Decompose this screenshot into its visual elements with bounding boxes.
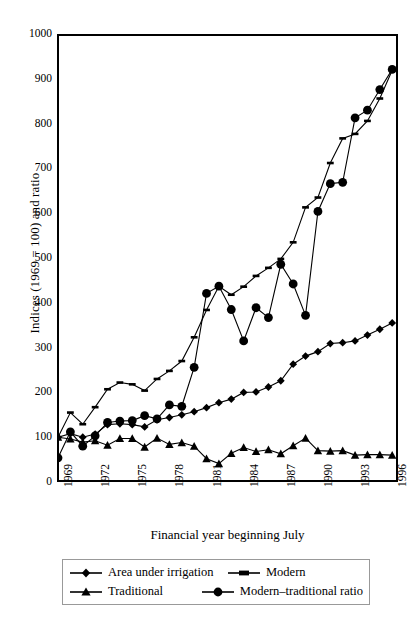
triangle-marker-icon (289, 442, 297, 450)
y-tick-label: 1000 (16, 28, 52, 40)
circle-marker-icon (326, 179, 335, 188)
triangle-marker-icon (69, 585, 103, 599)
circle-marker-icon (66, 427, 75, 436)
plus-tick-marker-icon (240, 285, 247, 288)
triangle-marker-icon (277, 450, 285, 458)
plus-tick-marker-icon (277, 258, 284, 261)
triangle-marker-icon (153, 434, 161, 442)
triangle-marker-icon (239, 443, 247, 451)
plus-tick-marker-icon (166, 370, 173, 373)
diamond-marker-icon (277, 377, 285, 385)
diamond-marker-icon (289, 360, 297, 368)
triangle-marker-icon (227, 449, 235, 457)
circle-marker-icon (252, 303, 261, 312)
x-tick-label: 1996 (397, 464, 409, 487)
plus-tick-marker-icon (315, 196, 322, 199)
legend-label: Modern (266, 566, 306, 579)
circle-marker-icon (314, 207, 323, 216)
circle-marker-icon (239, 336, 248, 345)
y-tick-label: 100 (16, 431, 52, 443)
plot-series-layer (57, 34, 398, 482)
x-tick-label: 1969 (63, 464, 75, 487)
circle-marker-icon (190, 363, 199, 372)
diamond-marker-icon (364, 331, 372, 339)
y-tick-label: 300 (16, 342, 52, 354)
triangle-marker-icon (264, 446, 272, 454)
x-tick-label: 1984 (249, 464, 261, 487)
plus-tick-marker-icon (104, 388, 111, 391)
triangle-marker-icon (140, 443, 148, 451)
x-tick-label: 1975 (137, 464, 149, 487)
circle-marker-icon (276, 260, 285, 269)
circle-marker-icon (140, 411, 149, 420)
plus-tick-marker-icon (79, 423, 86, 426)
circle-marker-icon (78, 442, 87, 451)
plus-tick-marker-icon (191, 336, 198, 339)
legend-entry-modern: Modern (227, 566, 306, 580)
x-axis-title: Financial year beginning July (57, 527, 398, 543)
diamond-marker-icon (240, 389, 248, 397)
circle-marker-icon (289, 280, 298, 289)
diamond-marker-icon (314, 348, 322, 356)
diamond-marker-icon (203, 404, 211, 412)
x-tick-label: 1972 (100, 464, 112, 487)
diamond-marker-icon (339, 339, 347, 347)
plus-tick-marker-icon (302, 206, 309, 209)
series-modern (57, 69, 396, 439)
series-line (58, 69, 392, 457)
triangle-marker-icon (103, 441, 111, 449)
legend-entry-traditional: Traditional (69, 585, 201, 599)
plus-tick-marker-icon (253, 275, 260, 278)
circle-marker-icon (177, 402, 186, 411)
diamond-marker-icon (141, 423, 149, 431)
series-line (58, 70, 392, 437)
x-tick-label: 1990 (323, 464, 335, 487)
plus-tick-marker-icon (339, 137, 346, 140)
diamond-marker-icon (351, 337, 359, 345)
series-traditional (57, 433, 396, 467)
plus-tick-marker-icon (364, 120, 371, 123)
x-tick-label: 1981 (212, 464, 224, 487)
plus-tick-marker-icon (178, 360, 185, 363)
triangle-marker-icon (301, 434, 309, 442)
diamond-marker-icon (69, 566, 103, 580)
diamond-marker-icon (215, 399, 223, 407)
circle-marker-icon (227, 305, 236, 314)
y-tick-label: 0 (16, 476, 52, 488)
diamond-marker-icon (302, 352, 310, 360)
plus-tick-marker-icon (141, 389, 148, 392)
circle-marker-icon (153, 414, 162, 423)
y-tick-label: 600 (16, 207, 52, 219)
circle-marker-icon (201, 585, 235, 599)
circle-marker-icon (215, 282, 224, 291)
plus-tick-marker-icon (265, 267, 272, 270)
circle-marker-icon (375, 85, 384, 94)
legend-label: Traditional (108, 585, 163, 598)
plus-tick-marker-icon (290, 241, 297, 244)
circle-marker-icon (301, 311, 310, 320)
series-modern-traditional-ratio (57, 65, 397, 462)
plus-tick-marker-icon (327, 162, 334, 165)
diamond-marker-icon (326, 340, 334, 348)
diamond-marker-icon (190, 408, 198, 416)
plus-tick-marker-icon (129, 383, 136, 386)
plus-tick-marker-icon (92, 406, 99, 409)
circle-marker-icon (351, 113, 360, 122)
circle-marker-icon (264, 313, 273, 322)
chart-legend: Area under irrigation Modern Traditional (62, 559, 370, 605)
diamond-marker-icon (388, 319, 396, 327)
diamond-marker-icon (252, 388, 260, 396)
plus-tick-marker-icon (116, 381, 123, 384)
circle-marker-icon (128, 416, 137, 425)
y-tick-label: 500 (16, 252, 52, 264)
y-tick-label: 900 (16, 73, 52, 85)
circle-marker-icon (363, 106, 372, 115)
triangle-marker-icon (178, 438, 186, 446)
circle-marker-icon (103, 418, 112, 427)
y-tick-label: 400 (16, 297, 52, 309)
y-tick-label: 700 (16, 162, 52, 174)
diamond-marker-icon (227, 395, 235, 403)
figure-chart: Indices (1969 = 100) and ratio 010020030… (0, 0, 420, 629)
legend-row: Area under irrigation Modern (69, 563, 363, 582)
diamond-marker-icon (178, 411, 186, 419)
